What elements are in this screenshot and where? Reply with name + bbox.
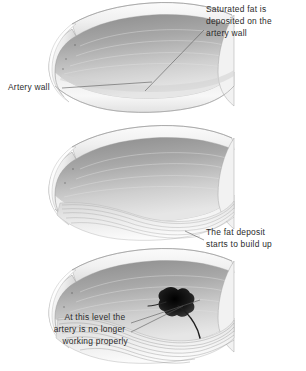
callout-fat-deposit: The fat deposit starts to build up	[206, 225, 272, 249]
callout-artery-wall: Artery wall	[8, 82, 50, 92]
callout-not-working: At this level the artery is no longer wo…	[54, 310, 129, 346]
artery-figure-svg: Saturated fat is deposited on the artery…	[0, 0, 306, 371]
artery-diagram: Saturated fat is deposited on the artery…	[0, 0, 306, 371]
